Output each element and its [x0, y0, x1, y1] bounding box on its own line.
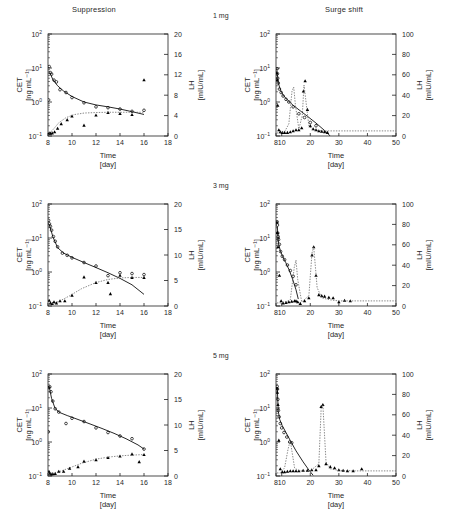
y-right-tick-label: 0 — [174, 303, 178, 310]
x-tick-label: 40 — [364, 139, 372, 146]
x-tick-label: 20 — [306, 309, 314, 316]
x-tick-label: 14 — [116, 139, 124, 146]
x-tick-label: 30 — [335, 139, 343, 146]
data-point — [291, 469, 294, 472]
data-point — [66, 118, 69, 121]
y-right-tick-label: 5 — [174, 447, 178, 454]
y-right-tick-label: 20 — [174, 371, 182, 378]
data-point — [306, 108, 309, 111]
data-point — [63, 299, 66, 302]
data-point — [94, 113, 97, 116]
x-tick-label: 10 — [68, 139, 76, 146]
plot-surge-shift-5mg: 8102030405010−1100101102020406080100CET[… — [228, 360, 458, 512]
data-point — [294, 128, 297, 131]
y-left-axis-title: CET — [15, 417, 24, 432]
y-left-tick-label: 100 — [259, 97, 270, 106]
y-left-axis-title: CET — [243, 77, 252, 92]
data-point — [143, 109, 146, 112]
data-point — [131, 272, 134, 275]
x-tick-label: 50 — [392, 309, 400, 316]
x-tick-label: 10 — [278, 309, 286, 316]
data-point — [290, 300, 293, 303]
data-point — [289, 469, 292, 472]
data-point — [300, 126, 303, 129]
x-axis-units: [day] — [100, 500, 116, 509]
data-point — [294, 469, 297, 472]
x-tick-label: 16 — [140, 479, 148, 486]
x-axis-title: Time — [328, 321, 344, 330]
data-point — [142, 78, 145, 81]
y-left-axis-units: [ng mL⁻¹] — [252, 409, 261, 441]
y-left-tick-label: 101 — [31, 63, 42, 72]
y-left-tick-label: 100 — [259, 267, 270, 276]
data-point — [324, 462, 327, 465]
plot-suppression-5mg: 8101214161810−110010110205101520CET[ng m… — [0, 360, 230, 512]
y-right-axis-title: LH — [415, 80, 424, 90]
x-tick-label: 10 — [68, 479, 76, 486]
plot-surge-shift-3mg: 8102030405010−1100101102020406080100CET[… — [228, 190, 458, 360]
x-tick-label: 10 — [278, 479, 286, 486]
y-left-tick-label: 102 — [31, 29, 42, 38]
data-point — [291, 129, 294, 132]
y-right-tick-label: 0 — [402, 473, 406, 480]
x-tick-label: 40 — [364, 309, 372, 316]
y-left-tick-label: 10−1 — [257, 131, 271, 140]
column-title-suppression: Suppression — [72, 5, 116, 14]
y-right-axis-title: LH — [415, 250, 424, 260]
y-right-axis-title: LH — [187, 80, 196, 90]
panel-surge-shift-5mg: 8102030405010−1100101102020406080100CET[… — [228, 360, 458, 512]
data-point — [303, 79, 306, 82]
y-right-tick-label: 100 — [402, 31, 414, 38]
y-right-axis-title: LH — [415, 420, 424, 430]
y-right-tick-label: 60 — [402, 411, 410, 418]
x-tick-label: 10 — [278, 139, 286, 146]
y-left-tick-label: 100 — [31, 97, 42, 106]
data-point — [311, 127, 314, 130]
x-axis-units: [day] — [100, 330, 116, 339]
data-point — [314, 468, 317, 471]
y-right-tick-label: 40 — [402, 262, 410, 269]
y-right-tick-label: 100 — [402, 201, 414, 208]
x-tick-label: 40 — [364, 479, 372, 486]
y-left-tick-label: 10−1 — [29, 301, 43, 310]
y-right-tick-label: 80 — [402, 391, 410, 398]
y-right-tick-label: 10 — [174, 252, 182, 259]
y-left-tick-label: 101 — [259, 63, 270, 72]
data-point — [56, 127, 59, 130]
y-right-tick-label: 16 — [174, 51, 182, 58]
x-tick-label: 16 — [140, 309, 148, 316]
data-point — [65, 422, 68, 425]
plot-suppression-1mg: 8101214161810−1100101102048121620CET[ng … — [0, 20, 230, 190]
data-point — [109, 292, 112, 295]
data-point — [94, 458, 97, 461]
data-point — [337, 468, 340, 471]
y-left-tick-label: 10−1 — [29, 131, 43, 140]
y-right-axis-units: [mIU/mL] — [424, 70, 433, 100]
series-line-3 — [49, 277, 144, 304]
y-left-tick-label: 102 — [259, 369, 270, 378]
x-tick-label: 14 — [116, 479, 124, 486]
x-axis-units: [day] — [328, 330, 344, 339]
data-point — [283, 470, 286, 473]
y-right-axis-title: LH — [187, 420, 196, 430]
series-line-1 — [277, 74, 330, 136]
x-axis-units: [day] — [328, 500, 344, 509]
plot-frame — [276, 204, 396, 306]
panel-surge-shift-1mg: 8102030405010−1100101102020406080100CET[… — [228, 20, 458, 190]
data-point — [307, 296, 310, 299]
series-line-1 — [49, 387, 144, 449]
y-right-tick-label: 20 — [402, 282, 410, 289]
data-point — [298, 112, 301, 115]
y-right-tick-label: 15 — [174, 226, 182, 233]
x-axis-units: [day] — [100, 160, 116, 169]
y-right-tick-label: 12 — [174, 71, 182, 78]
y-left-tick-label: 101 — [31, 233, 42, 242]
series-line-3 — [277, 247, 396, 303]
data-point — [276, 224, 279, 227]
x-tick-label: 18 — [164, 309, 172, 316]
data-point — [289, 130, 292, 133]
y-left-axis-units: [ng mL⁻¹] — [252, 69, 261, 101]
y-left-tick-label: 10−1 — [29, 471, 43, 480]
panel-suppression-3mg: 8101214161810−110010110205101520CET[ng m… — [0, 190, 230, 360]
x-tick-label: 8 — [46, 309, 50, 316]
